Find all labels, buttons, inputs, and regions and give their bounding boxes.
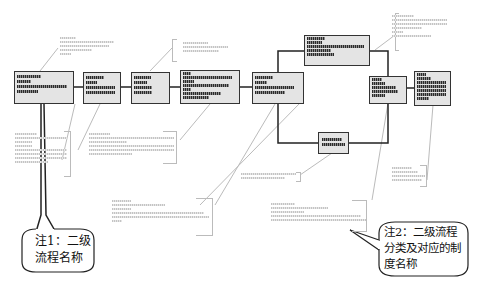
annotation-bracket: [296, 172, 301, 182]
annotation-bracket: [64, 131, 71, 177]
process-node-8[interactable]: [369, 76, 407, 104]
process-node-1[interactable]: [14, 71, 74, 104]
callout-note-2-line2: 分类及对应的制: [384, 240, 461, 256]
annotation-bracket: [420, 165, 427, 187]
process-diagram: 注1：二级 流程名称 注2：二级流程 分类及对应的制 度名称: [0, 0, 479, 286]
annotation-bracket: [172, 39, 177, 62]
annotation-note: [15, 133, 70, 165]
callout-note-1-line2: 流程名称: [35, 250, 91, 267]
callout-note-1: 注1：二级 流程名称: [35, 233, 91, 267]
callout-note-1-line1: 注1：二级: [35, 233, 91, 250]
annotation-bracket: [163, 131, 177, 164]
process-node-6[interactable]: [304, 35, 370, 66]
annotation-note: [112, 200, 209, 224]
process-node-2[interactable]: [83, 72, 121, 104]
callout-note-2-line3: 度名称: [384, 256, 461, 272]
annotation-bracket: [352, 200, 367, 232]
process-node-9[interactable]: [414, 71, 451, 106]
process-node-7[interactable]: [318, 132, 349, 154]
annotation-bracket: [196, 198, 213, 236]
annotation-note: [60, 37, 114, 57]
annotation-note: [241, 173, 296, 181]
process-node-4[interactable]: [180, 70, 240, 104]
callout-note-2: 注2：二级流程 分类及对应的制 度名称: [384, 224, 461, 272]
annotation-note: [392, 15, 447, 39]
annotation-note: [183, 42, 228, 54]
process-node-3[interactable]: [131, 72, 170, 104]
process-node-5[interactable]: [252, 72, 304, 104]
callout-note-2-line1: 注2：二级流程: [384, 224, 461, 240]
annotation-note: [89, 133, 174, 157]
